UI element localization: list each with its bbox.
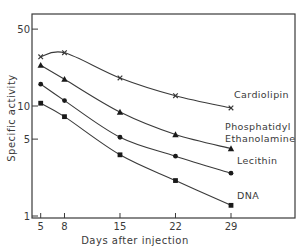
- series-cardiolipin: Cardiolipin: [38, 50, 289, 110]
- y-tick-label: 1: [24, 211, 30, 222]
- series-line: [41, 52, 231, 108]
- triangle-marker-icon: [117, 109, 123, 115]
- circle-marker-icon: [173, 154, 178, 159]
- series-line: [41, 65, 231, 148]
- series-dna: DNA: [38, 101, 259, 208]
- square-marker-icon: [173, 178, 178, 183]
- series-layer: CardiolipinPhosphatidylEthanolamineLecit…: [38, 50, 296, 207]
- series-line: [41, 103, 231, 205]
- x-axis-ticks: 58152229: [38, 213, 238, 232]
- y-tick-label: 50: [17, 24, 30, 35]
- series-phosphatidyl-ethanolamine: PhosphatidylEthanolamine: [38, 62, 296, 151]
- chart-container: 151050 58152229 CardiolipinPhosphatidylE…: [0, 0, 306, 250]
- x-tick-label: 15: [114, 221, 127, 232]
- circle-marker-icon: [229, 171, 234, 176]
- x-axis-title: Days after injection: [81, 235, 189, 246]
- series-label-lecithin: Lecithin: [237, 155, 277, 166]
- square-marker-icon: [38, 101, 43, 106]
- series-label-phosphatidyl-ethanolamine: Phosphatidyl: [225, 121, 291, 132]
- x-tick-label: 29: [225, 221, 238, 232]
- y-tick-label: 5: [24, 134, 30, 145]
- triangle-marker-icon: [38, 62, 44, 68]
- series-label-dna: DNA: [237, 190, 259, 201]
- cross-marker-icon: [118, 76, 123, 81]
- y-axis-title: Specific activity: [6, 74, 17, 161]
- triangle-marker-icon: [61, 76, 67, 82]
- y-tick-label: 10: [17, 101, 30, 112]
- series-label-cardiolipin: Cardiolipin: [234, 89, 289, 100]
- circle-marker-icon: [62, 98, 67, 103]
- circle-marker-icon: [118, 135, 123, 140]
- y-axis-ticks: 151050: [17, 24, 38, 222]
- line-chart: 151050 58152229 CardiolipinPhosphatidylE…: [0, 0, 306, 250]
- x-tick-label: 22: [169, 221, 182, 232]
- series-line: [41, 84, 231, 173]
- square-marker-icon: [62, 114, 67, 119]
- series-label-phosphatidyl-ethanolamine: Ethanolamine: [225, 133, 295, 144]
- plot-frame: [32, 14, 295, 218]
- square-marker-icon: [229, 203, 234, 208]
- x-tick-label: 5: [38, 221, 44, 232]
- circle-marker-icon: [38, 82, 43, 87]
- x-tick-label: 8: [61, 221, 67, 232]
- square-marker-icon: [118, 152, 123, 157]
